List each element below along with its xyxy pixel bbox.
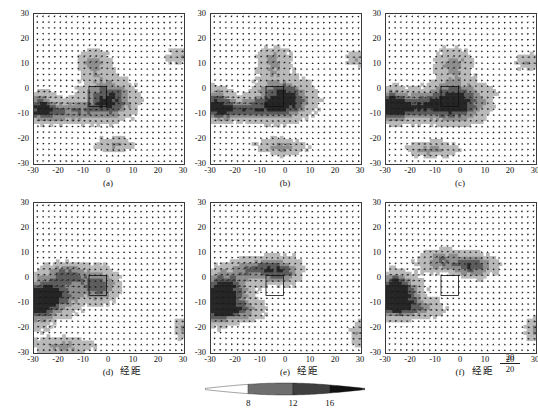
x-axis-title: 经距 (472, 367, 494, 377)
x-tick-label: 30 (531, 166, 538, 175)
plot-area-d (33, 202, 185, 354)
x-tick-label: -30 (204, 355, 215, 364)
x-tick-label: 0 (458, 166, 462, 175)
colorbar-tick-label: 8 (246, 399, 251, 408)
x-tick-label: -20 (229, 166, 240, 175)
panel-d (33, 202, 183, 352)
y-tick-label: -10 (359, 298, 381, 307)
x-tick-label: -30 (379, 166, 390, 175)
panel-label-e: (e) (280, 368, 290, 377)
x-axis-title: 经距 (120, 367, 142, 377)
y-tick-label: -20 (184, 134, 206, 143)
panel-label-c: (c) (455, 179, 465, 188)
x-tick-label: 30 (356, 355, 365, 364)
y-tick-label: 0 (184, 84, 206, 93)
x-tick-label: -20 (52, 355, 63, 364)
y-tick-label: -10 (359, 109, 381, 118)
y-tick-label: -20 (7, 323, 29, 332)
panel-e (210, 202, 360, 352)
x-tick-label: -30 (379, 355, 390, 364)
x-tick-label: -20 (229, 355, 240, 364)
plot-area-b (210, 13, 362, 165)
y-tick-label: -30 (184, 348, 206, 357)
x-tick-label: 10 (129, 166, 138, 175)
y-tick-label: -20 (359, 134, 381, 143)
x-tick-label: 10 (306, 355, 315, 364)
x-tick-label: 20 (331, 166, 340, 175)
y-tick-label: 20 (359, 223, 381, 232)
y-tick-label: -30 (7, 348, 29, 357)
quiver-scale-key: 2020 (500, 353, 520, 374)
panel-label-f: (f) (456, 368, 465, 377)
quiver-key-bottom: 20 (500, 365, 520, 374)
colorbar-tick-label: 16 (325, 399, 334, 408)
y-tick-label: -30 (184, 159, 206, 168)
plot-area-a (33, 13, 185, 165)
x-tick-label: -30 (27, 355, 38, 364)
y-tick-label: 20 (184, 34, 206, 43)
y-tick-label: 30 (359, 198, 381, 207)
x-tick-label: -10 (77, 355, 88, 364)
x-tick-label: 10 (129, 355, 138, 364)
y-tick-label: 0 (359, 84, 381, 93)
panel-label-a: (a) (103, 179, 113, 188)
plot-area-c (385, 13, 537, 165)
y-tick-label: 30 (359, 9, 381, 18)
y-tick-label: 20 (359, 34, 381, 43)
y-tick-label: -10 (7, 109, 29, 118)
x-tick-label: -30 (27, 166, 38, 175)
y-tick-label: 20 (7, 223, 29, 232)
x-tick-label: -10 (254, 166, 265, 175)
y-tick-label: 10 (359, 59, 381, 68)
x-tick-label: 10 (481, 166, 490, 175)
x-tick-label: 30 (179, 355, 188, 364)
panel-a (33, 13, 183, 163)
plot-area-f (385, 202, 537, 354)
x-tick-label: 0 (458, 355, 462, 364)
y-tick-label: 30 (184, 198, 206, 207)
x-tick-label: -10 (77, 166, 88, 175)
x-tick-label: 0 (106, 355, 110, 364)
x-axis-title: 经距 (297, 367, 319, 377)
y-tick-label: 20 (184, 223, 206, 232)
x-tick-label: 20 (506, 166, 515, 175)
y-tick-label: -30 (7, 159, 29, 168)
x-tick-label: 10 (306, 166, 315, 175)
x-tick-label: 30 (356, 166, 365, 175)
x-tick-label: -10 (254, 355, 265, 364)
x-tick-label: 20 (331, 355, 340, 364)
y-tick-label: -20 (359, 323, 381, 332)
y-tick-label: -10 (184, 109, 206, 118)
figure-canvas: -30-20-1001020303020100-10-20-30(a)纬距-30… (0, 0, 538, 409)
x-tick-label: 30 (179, 166, 188, 175)
y-tick-label: 0 (359, 273, 381, 282)
y-tick-label: 10 (7, 248, 29, 257)
x-tick-label: -10 (429, 166, 440, 175)
colorbar (205, 382, 365, 396)
colorbar-tick-label: 12 (289, 399, 298, 408)
panel-f (385, 202, 535, 352)
x-tick-label: 0 (106, 166, 110, 175)
x-tick-label: 0 (283, 355, 287, 364)
x-tick-label: -20 (404, 355, 415, 364)
y-tick-label: 10 (184, 59, 206, 68)
x-tick-label: 0 (283, 166, 287, 175)
x-tick-label: -20 (404, 166, 415, 175)
y-tick-label: -30 (359, 348, 381, 357)
x-tick-label: 20 (154, 355, 163, 364)
y-tick-label: -20 (184, 323, 206, 332)
y-tick-label: 10 (184, 248, 206, 257)
plot-area-e (210, 202, 362, 354)
x-tick-label: 30 (531, 355, 538, 364)
y-tick-label: -20 (7, 134, 29, 143)
y-tick-label: 30 (184, 9, 206, 18)
y-tick-label: 0 (7, 273, 29, 282)
y-tick-label: 0 (7, 84, 29, 93)
y-tick-label: 30 (7, 198, 29, 207)
x-tick-label: -30 (204, 166, 215, 175)
x-tick-label: -10 (429, 355, 440, 364)
y-tick-label: 10 (7, 59, 29, 68)
x-tick-label: -20 (52, 166, 63, 175)
quiver-key-top: 20 (500, 353, 520, 362)
y-tick-label: -30 (359, 159, 381, 168)
